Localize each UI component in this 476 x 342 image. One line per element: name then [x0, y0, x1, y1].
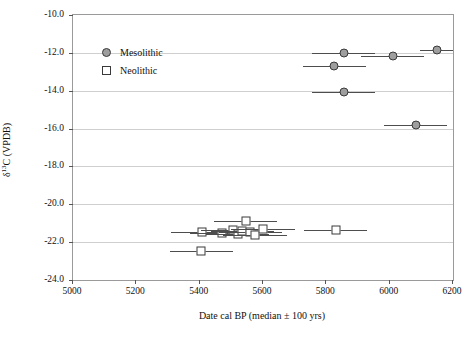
- x-tick-label: 5400: [189, 286, 208, 296]
- x-tick: [262, 280, 263, 284]
- y-tick: [69, 129, 73, 130]
- data-point-mesolithic: [339, 87, 348, 96]
- x-tick: [389, 280, 390, 284]
- filled-circle-icon: [99, 48, 113, 57]
- legend-label-mesolithic: Mesolithic: [120, 47, 163, 58]
- y-tick-label: -20.0: [22, 198, 64, 208]
- y-tick-label: -24.0: [22, 274, 64, 284]
- y-axis-title: δ13C (VPDB): [0, 123, 12, 177]
- legend-label-neolithic: Neolithic: [120, 65, 157, 76]
- x-tick: [135, 280, 136, 284]
- y-tick-label: -22.0: [22, 236, 64, 246]
- x-tick-label: 6000: [379, 286, 398, 296]
- data-point-neolithic: [197, 246, 206, 255]
- y-tick: [69, 91, 73, 92]
- y-tick: [69, 242, 73, 243]
- x-axis-title-text: Date cal BP (median ± 100 yrs): [199, 310, 325, 321]
- data-point-mesolithic: [339, 48, 348, 57]
- data-point-mesolithic: [433, 46, 442, 55]
- y-axis-title-text: δ13C (VPDB): [1, 123, 12, 177]
- y-tick-label: -10.0: [22, 9, 64, 19]
- open-square-icon: [99, 66, 113, 75]
- chart-figure: δ13C (VPDB) -10.0-12.0-14.0-16.0-18.0-20…: [0, 0, 476, 342]
- data-point-mesolithic: [388, 51, 397, 60]
- gridline: [73, 129, 453, 130]
- x-tick: [199, 280, 200, 284]
- data-point-neolithic: [259, 224, 268, 233]
- x-tick: [72, 280, 73, 284]
- data-point-neolithic: [241, 217, 250, 226]
- data-point-mesolithic: [330, 62, 339, 71]
- x-axis-title: Date cal BP (median ± 100 yrs): [199, 310, 325, 321]
- x-tick-label: 5600: [253, 286, 272, 296]
- x-tick-label: 5800: [316, 286, 335, 296]
- x-tick-label: 6200: [443, 286, 462, 296]
- y-tick: [69, 53, 73, 54]
- x-tick: [325, 280, 326, 284]
- plot-area: Mesolithic Neolithic: [72, 14, 454, 281]
- y-tick-label: -16.0: [22, 123, 64, 133]
- gridline: [73, 204, 453, 205]
- y-tick: [69, 204, 73, 205]
- y-tick-label: -12.0: [22, 47, 64, 57]
- legend: Mesolithic Neolithic: [99, 43, 163, 79]
- legend-item-mesolithic: Mesolithic: [99, 43, 163, 61]
- legend-item-neolithic: Neolithic: [99, 61, 163, 79]
- x-tick-label: 5200: [126, 286, 145, 296]
- y-tick: [69, 15, 73, 16]
- data-point-mesolithic: [411, 120, 420, 129]
- y-tick-label: -14.0: [22, 85, 64, 95]
- x-tick: [452, 280, 453, 284]
- x-tick-label: 5000: [63, 286, 82, 296]
- y-tick: [69, 166, 73, 167]
- gridline: [73, 166, 453, 167]
- gridline: [73, 242, 453, 243]
- gridline: [73, 91, 453, 92]
- data-point-neolithic: [331, 225, 340, 234]
- y-tick-label: -18.0: [22, 160, 64, 170]
